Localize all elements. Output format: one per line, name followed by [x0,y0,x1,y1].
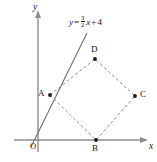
equation-lhs: y [69,17,73,27]
quadrilateral-abcd [50,59,135,140]
vertex-label-b: B [92,144,98,153]
x-axis-arrow-icon [140,137,148,143]
fraction-denominator: 2 [81,21,85,29]
vertex-dot-a [48,93,52,97]
vertex-label-a: A [38,89,45,98]
origin-label: O [30,142,36,151]
equation-plus: + [91,17,96,27]
y-axis-label: y [33,3,37,13]
equation-variable: x [86,17,90,27]
vertex-label-d: D [91,45,98,54]
vertex-dot-b [94,138,98,142]
vertex-dot-c [133,94,137,98]
equation-constant: 4 [97,17,102,27]
x-axis-label: x [149,142,153,152]
geometry-figure: y x O A B C D y = 3 2 x + 4 [0,0,157,162]
line-equation-label: y = 3 2 x + 4 [69,15,102,29]
vertex-label-c: C [140,90,146,99]
equation-equals: = [74,17,79,27]
equation-fraction: 3 2 [81,15,85,29]
vertex-dot-d [93,57,97,61]
